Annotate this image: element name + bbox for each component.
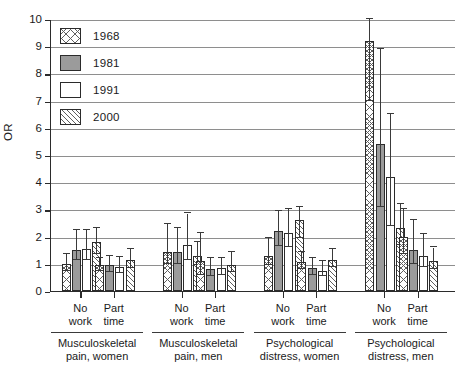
error-bar-cap-upper	[377, 48, 384, 49]
x-axis-tick-mark	[283, 292, 284, 298]
error-bar-cap-lower	[73, 259, 80, 260]
error-bar-cap-lower	[116, 272, 123, 273]
error-bar	[83, 230, 90, 291]
error-bar-cap-upper	[397, 203, 404, 204]
error-bar-stem	[301, 252, 302, 270]
y-axis-tick-label: 9	[16, 41, 42, 52]
error-bar-cap-upper	[298, 251, 305, 252]
error-bar-stem	[413, 220, 414, 264]
error-bar-stem	[390, 114, 391, 226]
error-bar-cap-lower	[430, 268, 437, 269]
legend-swatch-1991	[60, 82, 81, 98]
error-bar-stem	[278, 211, 279, 246]
error-bar-cap-lower	[275, 245, 282, 246]
group-separator-rule	[152, 332, 244, 333]
gridline	[51, 156, 455, 157]
y-axis-tick-mark	[45, 47, 50, 48]
chart-legend: 1968198119912000	[60, 22, 146, 130]
error-bar-stem	[221, 258, 222, 274]
error-bar	[377, 49, 384, 291]
error-bar	[63, 254, 70, 291]
legend-item-1991[interactable]: 1991	[60, 76, 146, 103]
error-bar	[164, 224, 171, 291]
legend-item-1981[interactable]: 1981	[60, 49, 146, 76]
error-bar-cap-upper	[329, 248, 336, 249]
y-axis-tick-label: 4	[16, 177, 42, 188]
error-bar-cap-upper	[275, 210, 282, 211]
or-bar-chart-figure: OR 012345678910 NoworkParttimeMusculoske…	[0, 0, 469, 370]
error-bar-stem	[86, 230, 87, 260]
error-bar	[197, 233, 204, 291]
error-bar-cap-lower	[285, 246, 292, 247]
error-bar	[127, 249, 134, 291]
error-bar-cap-lower	[164, 263, 171, 264]
error-bar-cap-lower	[218, 274, 225, 275]
y-axis-tick-mark	[45, 129, 50, 130]
error-bar-stem	[66, 254, 67, 270]
error-bar-stem	[433, 248, 434, 270]
error-bar	[275, 211, 282, 291]
x-axis-tick-mark	[316, 292, 317, 298]
error-bar-stem	[423, 234, 424, 267]
y-axis-tick-label: 8	[16, 68, 42, 79]
error-bar-cap-upper	[174, 227, 181, 228]
error-bar-cap-lower	[83, 259, 90, 260]
error-bar	[319, 261, 326, 291]
error-bar-cap-lower	[366, 100, 373, 101]
error-bar-cap-upper	[309, 257, 316, 258]
y-axis-tick-mark	[45, 183, 50, 184]
legend-swatch-1981	[60, 55, 81, 71]
error-bar	[309, 258, 316, 291]
y-axis-tick-mark	[45, 102, 50, 103]
y-axis-tick-label: 5	[16, 150, 42, 161]
group-label-line1: Psychological	[341, 337, 461, 350]
error-bar	[116, 257, 123, 291]
error-bar-stem	[322, 261, 323, 276]
error-bar	[228, 252, 235, 291]
error-bar-cap-lower	[265, 264, 272, 265]
error-bar-cap-lower	[400, 253, 407, 254]
y-axis-tick-mark	[45, 210, 50, 211]
error-bar	[207, 258, 214, 291]
error-bar-stem	[76, 230, 77, 260]
x-axis-tick-mark	[384, 292, 385, 298]
subgroup-label: Parttime	[286, 302, 346, 327]
error-bar-cap-upper	[116, 256, 123, 257]
error-bar	[366, 19, 373, 291]
x-axis-tick-mark	[215, 292, 216, 298]
y-axis-tick-mark	[45, 265, 50, 266]
legend-label-1991: 1991	[93, 84, 120, 96]
error-bar-stem	[167, 224, 168, 263]
subgroup-label-line1: Part	[286, 302, 346, 315]
error-bar-cap-upper	[73, 229, 80, 230]
error-bar-cap-upper	[106, 255, 113, 256]
error-bar-cap-upper	[296, 206, 303, 207]
error-bar-cap-lower	[298, 268, 305, 269]
x-axis-tick-mark	[182, 292, 183, 298]
error-bar-cap-lower	[377, 206, 384, 207]
y-axis-tick-mark	[45, 292, 50, 293]
error-bar-cap-lower	[329, 266, 336, 267]
error-bar	[430, 247, 437, 291]
error-bar-stem	[403, 209, 404, 254]
legend-item-1968[interactable]: 1968	[60, 22, 146, 49]
error-bar-cap-lower	[296, 237, 303, 238]
error-bar-stem	[177, 228, 178, 263]
legend-item-2000[interactable]: 2000	[60, 103, 146, 130]
error-bar	[400, 209, 407, 291]
error-bar	[106, 256, 113, 291]
error-bar-cap-upper	[83, 229, 90, 230]
subgroup-label-line2: time	[84, 315, 144, 328]
error-bar-cap-upper	[218, 257, 225, 258]
error-bar-cap-upper	[410, 219, 417, 220]
error-bar-cap-upper	[387, 113, 394, 114]
y-axis-title: OR	[2, 123, 14, 141]
error-bar-cap-upper	[400, 208, 407, 209]
group-label-line2: distress, men	[341, 350, 461, 363]
group-separator-rule	[254, 332, 346, 333]
error-bar-cap-upper	[285, 208, 292, 209]
legend-label-2000: 2000	[93, 111, 120, 123]
error-bar	[96, 258, 103, 291]
error-bar	[298, 252, 305, 291]
error-bar	[218, 258, 225, 291]
